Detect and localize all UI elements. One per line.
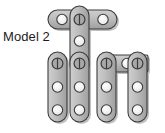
hole-top-left [57,14,67,24]
hole-left-mid [52,82,62,92]
pin-center-joint [74,58,85,69]
model-label: Model 2 [3,30,50,43]
hole-right-outer-bottom [132,105,142,115]
right-outer-vertical-strip [128,52,147,122]
hole-center-upper-mid [74,36,84,46]
center-lower-vertical-strip [70,52,89,122]
figure-canvas [0,0,165,133]
hole-center-lower-bottom [74,105,84,115]
hole-top-right [98,14,108,24]
pin-left-joint [52,58,63,69]
pin-top-center [74,14,85,25]
hole-right-outer-mid [132,82,142,92]
hole-right-inner-bottom [101,105,111,115]
pin-right-inner-joint [101,58,112,69]
pin-right-outer-joint [132,58,143,69]
hole-left-bottom [52,105,62,115]
hole-center-lower-mid [74,82,84,92]
left-vertical-strip [48,52,67,122]
assembly-diagram [0,0,165,133]
hole-right-inner-mid [101,82,111,92]
right-inner-vertical-strip [97,52,116,122]
